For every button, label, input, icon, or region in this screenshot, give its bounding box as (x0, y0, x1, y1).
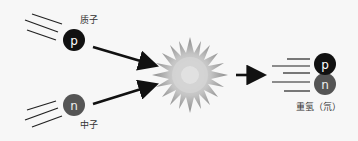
neutron-motion-lines (25, 101, 62, 127)
deuterium-label: 重氢（氘） (296, 100, 341, 113)
proton-particle: p (63, 29, 85, 51)
svg-text:p: p (321, 58, 329, 72)
neutron-arrow (93, 85, 154, 104)
proton-label: 质子 (80, 13, 98, 26)
neutron-label: 中子 (80, 118, 98, 131)
proton-motion-lines (25, 14, 62, 40)
svg-text:n: n (70, 99, 78, 113)
starburst-icon (152, 37, 228, 113)
svg-text:n: n (321, 78, 329, 92)
svg-text:p: p (70, 34, 78, 48)
neutron-particle: n (63, 94, 85, 116)
fusion-diagram: p n n p (0, 0, 358, 141)
proton-arrow (93, 47, 154, 65)
deuterium-motion-lines (272, 59, 310, 91)
deuterium-nucleus: n p (314, 53, 336, 95)
